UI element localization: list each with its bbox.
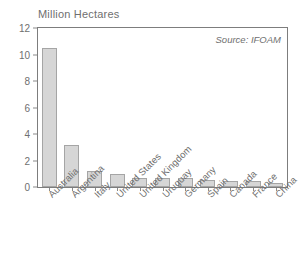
- chart-title: Million Hectares: [38, 8, 119, 20]
- y-axis-tick-label: 8: [24, 76, 30, 87]
- bar: [42, 48, 57, 187]
- y-axis-tick-label: 4: [24, 129, 30, 140]
- y-axis-tick-label: 2: [24, 155, 30, 166]
- bars-container: [38, 28, 287, 187]
- y-axis-tick-label: 12: [19, 23, 30, 34]
- x-axis-labels: AustraliaArgentinaItalyUnited StatesUnit…: [0, 190, 307, 258]
- bar-chart-figure: Million Hectares 024681012 Source: IFOAM…: [0, 0, 307, 258]
- y-axis-tick-label: 10: [19, 49, 30, 60]
- y-axis: 024681012: [0, 27, 37, 188]
- y-axis-tick-label: 6: [24, 102, 30, 113]
